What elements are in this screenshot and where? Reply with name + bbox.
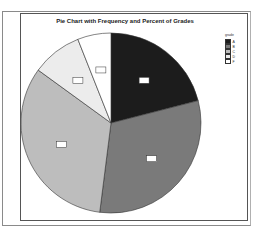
slice-label-box [56, 141, 66, 147]
legend-label: C [233, 50, 236, 54]
legend-swatch [225, 59, 231, 65]
legend-label: A [233, 40, 235, 44]
legend-label: D [233, 55, 236, 59]
legend-item-f: F [225, 59, 235, 64]
legend-label: F [233, 60, 235, 64]
slice-label-box [73, 77, 83, 83]
legend-title: grade [225, 33, 235, 37]
legend-label: B [233, 45, 235, 49]
legend: grade ABCDF [225, 33, 235, 64]
pie-chart [21, 14, 249, 222]
slice-label-box [139, 77, 149, 83]
slice-label-box [147, 156, 157, 162]
chart-frame: Pie Chart with Frequency and Percent of … [20, 13, 248, 221]
slice-label-box [96, 67, 106, 73]
